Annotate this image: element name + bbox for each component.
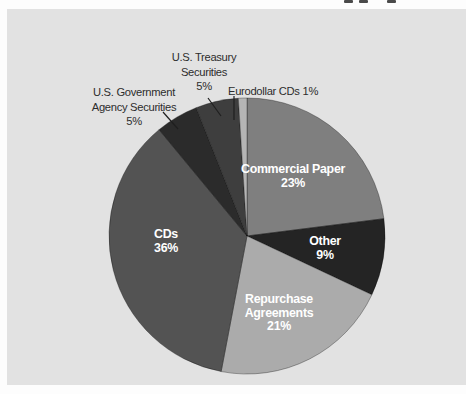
figure-canvas: U.S. Treasury Securities 5% U.S. Governm… [0, 0, 466, 394]
slice-label-commercial-paper: Commercial Paper 23% [233, 163, 353, 190]
slice-label-other: Other 9% [285, 235, 365, 262]
slice-label-cds: CDs 36% [126, 228, 206, 255]
slice-label-repurchase-agreements: Repurchase Agreements 21% [219, 293, 339, 334]
slice-label-us-government-agency-securities: U.S. Government Agency Securities 5% [74, 85, 194, 129]
slice-label-eurodollar-cds: Eurodollar CDs 1% [228, 84, 338, 99]
